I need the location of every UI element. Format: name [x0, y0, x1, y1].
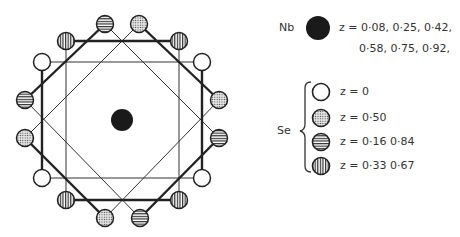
- se-atom-horizontal: [97, 16, 114, 33]
- se-atom-vertical: [171, 192, 188, 209]
- nb-z-values-line2: 0·58, 0·75, 0·92,: [359, 42, 450, 55]
- se-atom-vertical: [58, 33, 75, 50]
- se-atom-horizontal: [132, 210, 149, 227]
- se-atom-open: [34, 170, 51, 187]
- se-z-horizontal: z = 0·16 0·84: [340, 135, 414, 148]
- se-z-open: z = 0: [340, 85, 369, 98]
- se-atom-dotted: [17, 130, 34, 147]
- se-atom-open: [194, 170, 211, 187]
- se-atom-vertical: [58, 192, 75, 209]
- se-z-dotted: z = 0·50: [340, 111, 386, 124]
- se-label: Se: [277, 124, 291, 137]
- nbse-coordination-diagram: [0, 0, 460, 237]
- nb-atom-center: [111, 109, 133, 131]
- se-atom-dotted: [97, 210, 114, 227]
- legend-se-symbols: [313, 84, 330, 175]
- se-atom-open: [34, 54, 51, 71]
- se-atom-horizontal: [17, 92, 34, 109]
- se-atom-dotted: [131, 16, 148, 33]
- se-atom-dotted: [211, 92, 228, 109]
- se-z-vertical: z = 0·33 0·67: [340, 159, 414, 172]
- legend-nb-symbol: [306, 16, 330, 40]
- nb-z-values-line1: z = 0·08, 0·25, 0·42,: [339, 21, 452, 34]
- se-atom-open: [194, 54, 211, 71]
- se-atom-horizontal: [211, 130, 228, 147]
- nb-label: Nb: [279, 21, 294, 34]
- se-atom-vertical: [171, 33, 188, 50]
- se-brace: [300, 82, 311, 172]
